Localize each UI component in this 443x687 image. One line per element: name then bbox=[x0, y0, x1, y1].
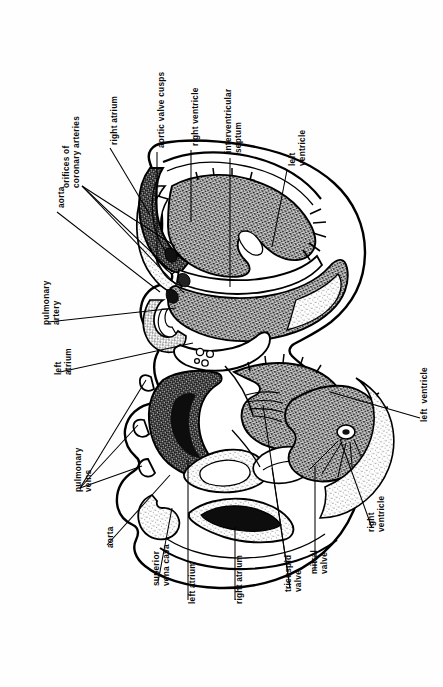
label-line-2: veins bbox=[83, 470, 93, 492]
label-line-1: right bbox=[366, 512, 376, 532]
label-right-ventricle-bottom: rightventricle bbox=[367, 496, 387, 532]
leader-left-atrium-left bbox=[60, 343, 193, 372]
label-line-2: valve bbox=[293, 570, 303, 592]
label-line-2: vena cava bbox=[161, 544, 171, 586]
label-left-atrium-left: leftatrium bbox=[54, 348, 74, 375]
label-line-1: tricuspid bbox=[283, 555, 293, 592]
label-line-1: left ventricle bbox=[419, 367, 429, 422]
leader-lines bbox=[0, 0, 443, 687]
label-right-atrium-top: right atrium bbox=[110, 96, 120, 145]
label-line-1: pulmonary bbox=[41, 280, 51, 325]
leader-right-atrium-top bbox=[110, 148, 150, 215]
label-line-1: right atrium bbox=[234, 555, 244, 604]
label-line-2: septum bbox=[233, 122, 243, 153]
label-line-1: left atrium bbox=[187, 561, 197, 604]
label-superior-vena-cava: superiorvena cava bbox=[152, 544, 172, 586]
leader-orifices-1 bbox=[82, 186, 175, 246]
leader-orifices-2 bbox=[82, 186, 172, 272]
label-line-1: mitral bbox=[309, 550, 319, 574]
label-aorta-top: aorta bbox=[57, 186, 67, 208]
label-line-1: right ventricle bbox=[190, 87, 200, 146]
label-left-ventricle-right: left ventricle bbox=[420, 367, 430, 422]
label-interventricular-septum: interventricularseptum bbox=[224, 89, 244, 153]
label-line-1: interventricular bbox=[223, 89, 233, 153]
diagram-page: orifices ofcoronary arteries right atriu… bbox=[0, 0, 443, 687]
label-pulmonary-artery: pulmonaryartery bbox=[42, 280, 62, 325]
label-mitral-valve: mitralvalve bbox=[310, 550, 330, 574]
label-tricuspid-valve: tricuspidvalve bbox=[284, 555, 304, 592]
label-line-1: aorta bbox=[56, 186, 66, 208]
label-left-ventricle-top: leftventricle bbox=[288, 130, 308, 166]
label-right-ventricle-top: right ventricle bbox=[191, 87, 201, 146]
label-line-2: ventricle bbox=[376, 496, 386, 532]
leader-aorta-bottom bbox=[107, 475, 170, 545]
label-left-atrium-bottom: left atrium bbox=[188, 561, 198, 604]
leader-pulmonary-artery bbox=[48, 308, 176, 322]
label-line-1: aortic valve cusps bbox=[156, 72, 166, 148]
label-line-1: orifices of bbox=[61, 146, 71, 188]
label-line-1: left bbox=[287, 153, 297, 166]
label-line-1: superior bbox=[151, 551, 161, 586]
leader-left-ventricle-top bbox=[272, 170, 287, 247]
label-line-1: pulmonary bbox=[73, 447, 83, 492]
label-aorta-bottom: aorta bbox=[106, 526, 116, 548]
label-line-2: coronary arteries bbox=[71, 116, 81, 188]
leader-orifices-3 bbox=[82, 186, 184, 293]
label-line-1: right atrium bbox=[109, 96, 119, 145]
label-aortic-valve-cusps: aortic valve cusps bbox=[157, 72, 167, 148]
label-line-2: ventricle bbox=[297, 130, 307, 166]
label-pulmonary-veins: pulmonaryveins bbox=[74, 447, 94, 492]
label-right-atrium-bottom: right atrium bbox=[235, 555, 245, 604]
label-line-2: artery bbox=[51, 300, 61, 325]
label-line-1: left bbox=[53, 362, 63, 375]
label-line-2: valve bbox=[319, 552, 329, 574]
label-orifices-of-coronary-arteries: orifices ofcoronary arteries bbox=[62, 116, 82, 188]
leader-left-ventricle-right bbox=[330, 392, 420, 418]
label-line-1: aorta bbox=[105, 526, 115, 548]
label-line-2: atrium bbox=[63, 348, 73, 375]
